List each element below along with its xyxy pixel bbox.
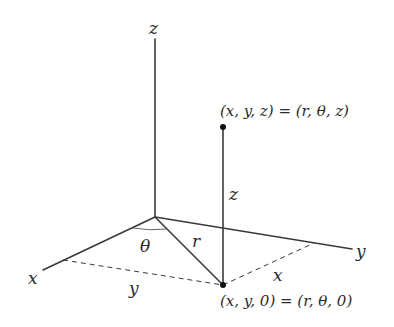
x-axis [43,217,155,270]
point-xy0-label: (x, y, 0) = (r, θ, 0) [220,292,352,310]
r-label: r [192,231,201,251]
theta-arc [133,228,166,230]
z-axis-label: z [148,18,159,38]
theta-label: θ [140,236,150,256]
y-axis [155,217,352,249]
x-axis-label: x [28,268,38,288]
point-xy0 [220,282,226,288]
point-xyz [220,124,226,130]
point-xyz-label: (x, y, z) = (r, θ, z) [220,102,349,120]
dashed-y-label: y [128,278,139,298]
r-segment [155,217,223,285]
dashed-x-label: x [273,265,283,285]
cylindrical-coordinates-diagram: z x y θ r z x y (x, y, z) = (r, θ, z) (x… [0,0,394,327]
y-axis-label: y [355,241,366,261]
z-segment-label: z [228,184,239,204]
dashed-y-projection [63,260,223,285]
dashed-x-projection [223,243,314,285]
